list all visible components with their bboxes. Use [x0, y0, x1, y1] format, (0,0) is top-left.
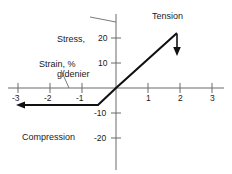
x-tick-label--3: -3	[12, 93, 20, 103]
stress-label-leader-line	[90, 17, 116, 22]
y-tick-label-20: 20	[98, 33, 107, 43]
x-tick-label--1: -1	[76, 93, 84, 103]
tension-region-label: Tension	[152, 11, 183, 23]
y-tick-label--10: -10	[94, 108, 106, 118]
strain-axis-label: Strain, %	[39, 59, 76, 71]
y-tick-label-10: 10	[98, 58, 107, 68]
x-tick-label-3: 3	[210, 93, 215, 103]
x-tick-label-2: 2	[178, 93, 183, 103]
x-tick-label-1: 1	[146, 93, 151, 103]
y-tick-label--20: -20	[94, 133, 106, 143]
compression-region-label: Compression	[22, 132, 75, 144]
stress-axis-label-line1: Stress,	[57, 34, 90, 46]
x-tick-label--2: -2	[44, 93, 52, 103]
stress-strain-figure: Stress, g/denier Strain, % Tension Compr…	[0, 0, 232, 174]
tension-arrow-icon	[173, 47, 181, 56]
stress-axis-label: Stress, g/denier	[57, 11, 90, 103]
plot-canvas	[0, 0, 232, 174]
